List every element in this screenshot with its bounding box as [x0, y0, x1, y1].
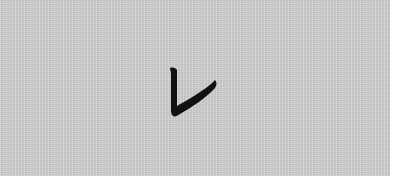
katakana-re-stroke [160, 58, 228, 126]
character-card: レ [0, 0, 390, 176]
katakana-glyph: レ [160, 58, 228, 126]
glyph-character: レ [160, 126, 161, 127]
glyph-stroke [170, 68, 217, 117]
